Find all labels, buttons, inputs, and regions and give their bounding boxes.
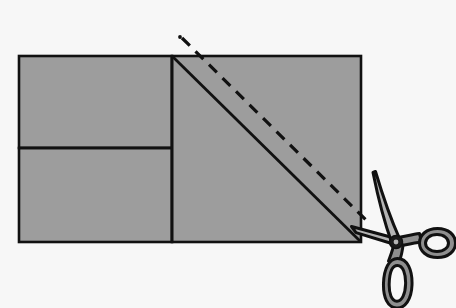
scissors-pivot-screw [394,240,399,245]
left-lower-panel [19,148,172,242]
left-upper-panel [19,56,172,148]
cut-line-start-dot [178,35,182,39]
paper-cut-illustration [0,0,456,308]
illustration-canvas: Paper square with scissors cutting along… [0,0,456,308]
